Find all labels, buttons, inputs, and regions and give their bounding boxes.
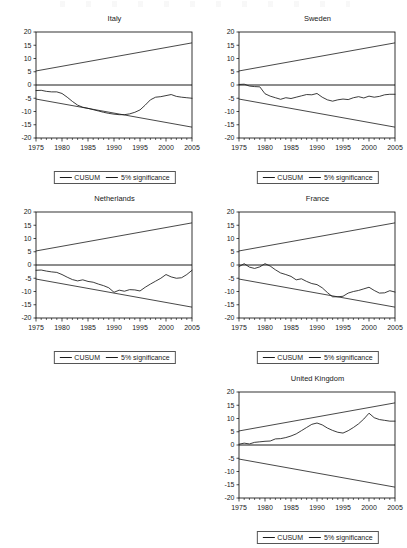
legend-france: CUSUM 5% significance	[256, 351, 378, 364]
svg-text:1975: 1975	[231, 504, 247, 511]
legend-entry-cusum: CUSUM	[59, 353, 100, 362]
plot-italy: 20151050-5-10-15-20197519801985199019952…	[0, 10, 203, 190]
legend-swatch-cusum-icon	[262, 357, 274, 358]
legend-label-significance: 5% significance	[324, 533, 373, 542]
legend-entry-significance: 5% significance	[106, 353, 170, 362]
svg-text:15: 15	[227, 42, 235, 49]
svg-text:0: 0	[231, 81, 235, 88]
svg-text:1990: 1990	[309, 144, 325, 151]
svg-text:20: 20	[227, 388, 235, 395]
svg-text:-5: -5	[228, 275, 234, 282]
panel-france: France 20151050-5-10-15-2019751980198519…	[203, 190, 406, 370]
legend-entry-significance: 5% significance	[309, 173, 373, 182]
svg-text:2000: 2000	[158, 324, 174, 331]
svg-text:-10: -10	[224, 108, 234, 115]
svg-text:-20: -20	[224, 134, 234, 141]
svg-text:1975: 1975	[231, 144, 247, 151]
svg-text:1985: 1985	[283, 504, 299, 511]
svg-text:2000: 2000	[361, 324, 377, 331]
svg-text:1995: 1995	[132, 324, 148, 331]
svg-text:0: 0	[28, 261, 32, 268]
svg-text:1995: 1995	[335, 324, 351, 331]
plot-sweden: 20151050-5-10-15-20197519801985199019952…	[203, 10, 406, 190]
panel-italy: Italy 20151050-5-10-15-20197519801985199…	[0, 10, 203, 190]
svg-text:-15: -15	[224, 301, 234, 308]
legend-label-cusum: CUSUM	[277, 173, 303, 182]
svg-text:-20: -20	[21, 314, 31, 321]
svg-text:1995: 1995	[335, 504, 351, 511]
legend-entry-significance: 5% significance	[309, 353, 373, 362]
legend-label-significance: 5% significance	[324, 353, 373, 362]
legend-swatch-significance-icon	[309, 177, 321, 178]
legend-swatch-cusum-icon	[262, 177, 274, 178]
svg-text:0: 0	[231, 261, 235, 268]
legend-label-cusum: CUSUM	[277, 353, 303, 362]
legend-swatch-cusum-icon	[262, 537, 274, 538]
legend-label-significance: 5% significance	[121, 173, 170, 182]
svg-text:10: 10	[227, 235, 235, 242]
svg-text:1995: 1995	[335, 144, 351, 151]
svg-text:15: 15	[24, 42, 32, 49]
svg-text:1980: 1980	[257, 324, 273, 331]
svg-text:15: 15	[227, 222, 235, 229]
svg-text:5: 5	[231, 428, 235, 435]
svg-text:1980: 1980	[257, 144, 273, 151]
svg-text:2005: 2005	[184, 144, 200, 151]
svg-text:-5: -5	[228, 455, 234, 462]
svg-text:10: 10	[24, 55, 32, 62]
svg-text:-10: -10	[224, 288, 234, 295]
page-header-artifact	[60, 1, 350, 7]
svg-text:1985: 1985	[80, 144, 96, 151]
svg-text:2000: 2000	[361, 144, 377, 151]
svg-text:20: 20	[227, 28, 235, 35]
svg-text:-10: -10	[21, 108, 31, 115]
svg-text:10: 10	[227, 55, 235, 62]
svg-text:5: 5	[231, 68, 235, 75]
legend-swatch-significance-icon	[106, 177, 118, 178]
svg-text:2000: 2000	[361, 504, 377, 511]
svg-text:-15: -15	[224, 481, 234, 488]
legend-label-cusum: CUSUM	[74, 353, 100, 362]
svg-text:-20: -20	[21, 134, 31, 141]
legend-label-significance: 5% significance	[121, 353, 170, 362]
legend-swatch-significance-icon	[106, 357, 118, 358]
svg-text:1990: 1990	[106, 144, 122, 151]
svg-text:2005: 2005	[387, 144, 403, 151]
svg-text:5: 5	[231, 248, 235, 255]
svg-text:1980: 1980	[54, 144, 70, 151]
plot-netherlands: 20151050-5-10-15-20197519801985199019952…	[0, 190, 203, 370]
svg-text:-20: -20	[224, 494, 234, 501]
legend-swatch-cusum-icon	[59, 177, 71, 178]
svg-text:1990: 1990	[309, 504, 325, 511]
svg-text:-10: -10	[224, 468, 234, 475]
svg-text:-15: -15	[21, 301, 31, 308]
svg-text:15: 15	[227, 402, 235, 409]
legend-italy: CUSUM 5% significance	[53, 171, 175, 184]
svg-text:10: 10	[24, 235, 32, 242]
svg-text:1985: 1985	[283, 144, 299, 151]
legend-netherlands: CUSUM 5% significance	[53, 351, 175, 364]
svg-text:15: 15	[24, 222, 32, 229]
svg-text:5: 5	[28, 248, 32, 255]
panel-sweden: Sweden 20151050-5-10-15-2019751980198519…	[203, 10, 406, 190]
svg-text:5: 5	[28, 68, 32, 75]
legend-swatch-significance-icon	[309, 357, 321, 358]
svg-text:1985: 1985	[283, 324, 299, 331]
legend-label-cusum: CUSUM	[277, 533, 303, 542]
legend-label-cusum: CUSUM	[74, 173, 100, 182]
panel-netherlands: Netherlands 20151050-5-10-15-20197519801…	[0, 190, 203, 370]
svg-text:1975: 1975	[28, 324, 44, 331]
legend-entry-cusum: CUSUM	[262, 533, 303, 542]
plot-united-kingdom: 20151050-5-10-15-20197519801985199019952…	[203, 370, 406, 548]
svg-text:0: 0	[231, 441, 235, 448]
svg-text:1975: 1975	[28, 144, 44, 151]
svg-text:-15: -15	[224, 121, 234, 128]
legend-united-kingdom: CUSUM 5% significance	[256, 531, 378, 544]
legend-swatch-significance-icon	[309, 537, 321, 538]
panel-united-kingdom: United Kingdom 20151050-5-10-15-20197519…	[203, 370, 406, 548]
svg-text:2005: 2005	[184, 324, 200, 331]
cusum-panel-grid: Italy 20151050-5-10-15-20197519801985199…	[0, 10, 407, 548]
svg-text:-5: -5	[25, 275, 31, 282]
svg-text:2005: 2005	[387, 504, 403, 511]
svg-text:10: 10	[227, 415, 235, 422]
